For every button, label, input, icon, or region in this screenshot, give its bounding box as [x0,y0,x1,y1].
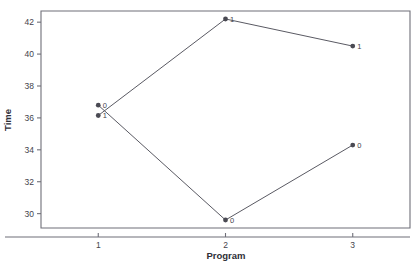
y-tick-label: 42 [25,17,35,27]
data-point [350,143,355,148]
x-tick-label: 2 [223,240,228,250]
interaction-plot: 30323436384042 123 000111 Program Time [0,0,417,263]
data-point [96,113,101,118]
data-point-label: 1 [230,15,234,24]
data-point [96,103,101,108]
y-tick-label: 38 [25,81,35,91]
chart-canvas: 30323436384042 123 000111 Program Time [0,0,417,263]
data-point-label: 1 [103,111,107,120]
y-tick-label: 32 [25,177,35,187]
x-axis-title: Program [206,250,245,261]
chart-background [0,0,417,263]
x-tick-label: 1 [96,240,101,250]
data-point [223,218,228,223]
y-axis-title: Time [2,109,13,131]
x-tick-label: 3 [350,240,355,250]
y-tick-label: 40 [25,49,35,59]
y-tick-label: 34 [25,145,35,155]
data-point [350,44,355,49]
data-point-label: 0 [357,141,361,150]
y-tick-label: 30 [25,209,35,219]
data-point-label: 0 [230,216,234,225]
data-point-label: 0 [103,101,107,110]
y-tick-label: 36 [25,113,35,123]
data-point [223,17,228,22]
data-point-label: 1 [357,42,361,51]
